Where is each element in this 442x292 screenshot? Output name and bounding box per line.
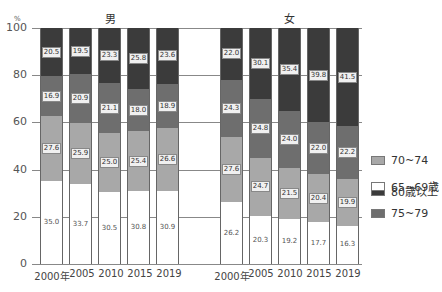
segment-value: 18.9 [158, 101, 178, 112]
segment-value: 19.2 [281, 237, 299, 246]
segment-value: 30.5 [101, 224, 119, 233]
bar-segment: 35.4 [279, 28, 300, 111]
stacked-bar-chart: % 100 80 60 40 20 0 男 女 35.027.616.920.5… [0, 0, 442, 292]
bar-segment: 20.9 [70, 74, 91, 123]
segment-value: 25.9 [71, 148, 91, 159]
bar-segment: 16.9 [41, 76, 62, 116]
bar-segment: 24.8 [250, 99, 271, 158]
y-tick: 0 [0, 258, 27, 270]
segment-value: 24.0 [280, 134, 300, 145]
segment-value: 17.7 [310, 239, 328, 248]
segment-value: 19.5 [71, 46, 91, 57]
bar-segment: 30.9 [157, 191, 178, 264]
segment-value: 26.2 [223, 229, 241, 238]
bar-segment: 24.0 [279, 111, 300, 168]
segment-value: 21.1 [100, 103, 120, 114]
legend-item-65-69: 65~69歳 [371, 178, 439, 194]
segment-value: 20.9 [71, 93, 91, 104]
women-bar: 17.720.422.039.8 [307, 28, 330, 264]
men-bar: 30.825.418.025.8 [127, 28, 150, 264]
bar-segment: 33.7 [70, 184, 91, 264]
bar-segment: 19.5 [70, 28, 91, 74]
segment-value: 16.3 [339, 240, 357, 249]
y-tick: 20 [0, 211, 27, 223]
segment-value: 22.2 [338, 147, 358, 158]
legend-item-75-79: 75~79 [371, 207, 428, 220]
y-tick: 80 [0, 69, 27, 81]
legend-swatch [371, 182, 385, 191]
segment-value: 27.6 [42, 143, 62, 154]
segment-value: 20.3 [252, 236, 270, 245]
segment-value: 22.0 [309, 143, 329, 154]
bar-segment: 25.8 [128, 28, 149, 89]
segment-value: 20.4 [309, 193, 329, 204]
bar-segment: 35.0 [41, 181, 62, 264]
bar-segment: 18.9 [157, 84, 178, 129]
segment-value: 30.9 [159, 223, 177, 232]
segment-value: 22.0 [222, 48, 242, 59]
segment-value: 35.4 [280, 64, 300, 75]
segment-value: 18.0 [129, 105, 149, 116]
panel-title-men: 男 [105, 10, 116, 26]
bar-segment: 39.8 [308, 28, 329, 122]
y-tick: 40 [0, 164, 27, 176]
segment-value: 23.6 [158, 50, 178, 61]
men-bar: 30.926.618.923.6 [156, 28, 179, 264]
bar-segment: 18.0 [128, 89, 149, 131]
bar-segment: 24.7 [250, 158, 271, 216]
segment-value: 24.3 [222, 103, 242, 114]
segment-value: 27.6 [222, 164, 242, 175]
legend-label: 65~69歳 [391, 178, 439, 194]
bar-segment: 22.2 [337, 126, 358, 178]
panel-title-women: 女 [284, 10, 295, 26]
segment-value: 16.9 [42, 91, 62, 102]
women-bar: 19.221.524.035.4 [278, 28, 301, 264]
bar-segment: 25.9 [70, 123, 91, 184]
y-tick: 100 [0, 22, 27, 34]
segment-value: 25.8 [129, 53, 149, 64]
bar-segment: 20.4 [308, 174, 329, 222]
segment-value: 25.4 [129, 156, 149, 167]
bar-segment: 17.7 [308, 222, 329, 264]
bar-segment: 21.1 [99, 83, 120, 133]
segment-value: 30.8 [130, 223, 148, 232]
x-label: 2019 [149, 268, 189, 279]
bar-segment: 26.6 [157, 128, 178, 191]
bar-segment: 25.4 [128, 131, 149, 191]
segment-value: 25.0 [100, 157, 120, 168]
segment-value: 33.7 [72, 220, 90, 229]
bar-segment: 25.0 [99, 133, 120, 192]
segment-value: 30.1 [251, 58, 271, 69]
bar-segment: 22.0 [221, 28, 242, 80]
legend-label: 75~79 [391, 207, 428, 220]
y-tick: 60 [0, 116, 27, 128]
bar-segment: 21.5 [279, 168, 300, 219]
bar-segment: 27.6 [41, 116, 62, 181]
bar-segment: 24.3 [221, 80, 242, 137]
segment-value: 23.3 [100, 50, 120, 61]
bar-segment: 16.3 [337, 226, 358, 264]
x-label: 2019 [328, 268, 368, 279]
bar-segment: 19.9 [337, 179, 358, 226]
bar-segment: 23.6 [157, 28, 178, 84]
bar-segment: 23.3 [99, 28, 120, 83]
segment-value: 41.5 [338, 72, 358, 83]
x-axis [32, 264, 362, 265]
segment-value: 35.0 [43, 218, 61, 227]
segment-value: 19.9 [338, 197, 358, 208]
men-bar: 33.725.920.919.5 [69, 28, 92, 264]
segment-value: 24.8 [251, 123, 271, 134]
bar-segment: 41.5 [337, 28, 358, 126]
legend-swatch [371, 209, 385, 218]
men-bar: 35.027.616.920.5 [40, 28, 63, 264]
women-bar: 20.324.724.830.1 [249, 28, 272, 264]
bar-segment: 20.3 [250, 216, 271, 264]
bar-segment: 30.8 [128, 191, 149, 264]
segment-value: 24.7 [251, 181, 271, 192]
legend-label: 70~74 [391, 154, 428, 167]
men-bar: 30.525.021.123.3 [98, 28, 121, 264]
bar-segment: 30.5 [99, 192, 120, 264]
bar-segment: 30.1 [250, 28, 271, 99]
segment-value: 20.5 [42, 47, 62, 58]
legend-item-70-74: 70~74 [371, 154, 428, 167]
